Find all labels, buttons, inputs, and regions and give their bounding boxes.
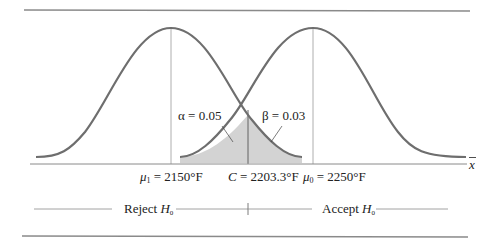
beta-label: β = 0.03 [262,108,305,123]
hypothesis-test-diagram: x α = 0.05 β = 0.03 μ1 = 2150°F C = 2203… [0,0,488,245]
accept-region-label: Accept H0 [322,201,375,217]
right-normal-curve [180,28,466,157]
top-rule [24,10,470,11]
critical-value-label: C = 2203.3°F [228,169,299,184]
mu1-label: μ1 = 2150°F [139,169,203,185]
alpha-label: α = 0.05 [178,108,221,123]
x-axis-label: x [468,157,475,172]
beta-leader-line [271,126,282,142]
reject-region-label: Reject H0 [124,201,174,217]
bottom-rule [22,236,468,237]
mu0-label: μ0 = 2250°F [302,169,366,185]
